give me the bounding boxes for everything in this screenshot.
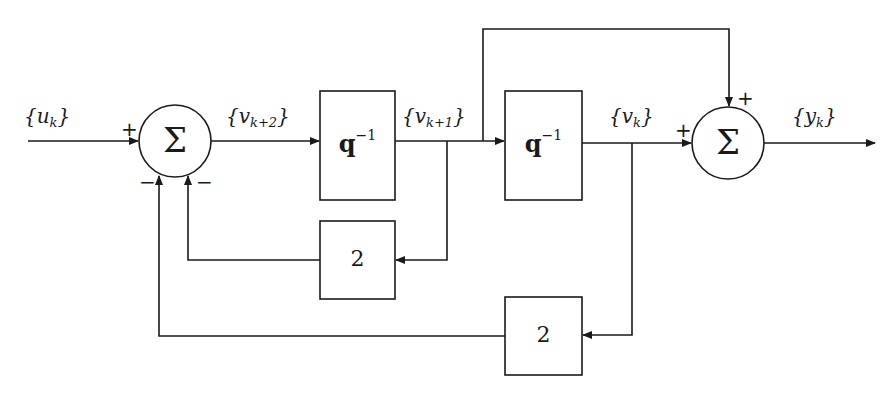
signal-label-v-k: {vk} <box>609 104 654 130</box>
sum1-plus-sign: + <box>121 119 138 139</box>
signal-label-v-k-plus-1: {vk+1} <box>402 104 466 130</box>
sum2-plus-sign-top: + <box>737 88 754 108</box>
block-diagram-canvas <box>0 0 895 396</box>
bypass-path <box>483 29 729 141</box>
signal-label-v-k-plus-2: {vk+2} <box>226 104 290 130</box>
signal-label-output: {yk} <box>792 104 837 130</box>
signal-label-input: {uk} <box>24 104 70 130</box>
gain-block-2-label: 2 <box>505 322 582 347</box>
delay-block-2-label: q−1 <box>505 127 582 158</box>
sum1-minus-sign-left: − <box>139 172 156 192</box>
sigma-symbol-1: Σ <box>145 123 205 157</box>
sigma-symbol-2: Σ <box>698 125 758 159</box>
feedback-tap-1 <box>396 141 447 260</box>
gain-block-1-label: 2 <box>320 246 395 271</box>
sum2-plus-sign-left: + <box>675 120 692 140</box>
delay-block-1-label: q−1 <box>320 127 395 158</box>
feedback-tap-2 <box>583 143 632 335</box>
sum1-minus-sign-right: − <box>196 172 213 192</box>
